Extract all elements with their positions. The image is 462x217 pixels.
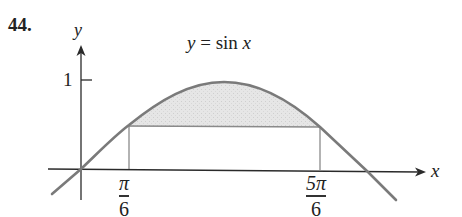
marker-denominator: 6 <box>311 198 321 217</box>
x-axis-label: x <box>431 160 439 182</box>
marker-denominator: 6 <box>119 198 129 217</box>
figure: 44. y <box>0 0 462 217</box>
marker-5pi-over-6: 5π 6 <box>306 172 326 217</box>
curve-label-eq: = <box>200 32 211 53</box>
y-tick-label: 1 <box>63 69 73 91</box>
curve-label-var: x <box>243 32 251 53</box>
marker-numerator: π <box>119 172 129 194</box>
fraction-bar <box>306 195 326 197</box>
rectangle <box>129 126 320 170</box>
fraction-bar <box>119 195 129 197</box>
curve-label: y = sin x <box>187 32 251 54</box>
curve-label-fn: sin <box>216 32 238 53</box>
y-axis-label: y <box>74 20 82 41</box>
marker-numerator: 5π <box>306 172 326 194</box>
y-axis <box>77 45 93 200</box>
curve-label-y: y <box>187 32 195 53</box>
marker-pi-over-6: π 6 <box>119 172 129 217</box>
